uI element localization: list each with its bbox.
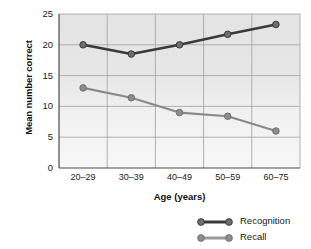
data-series-layer: [80, 21, 279, 134]
y-axis-title: Mean number correct: [23, 8, 34, 168]
horizontal-gridlines: [59, 14, 300, 137]
legend-marker-recognition: [196, 214, 234, 226]
plot-canvas: [59, 14, 300, 168]
x-axis-title: Age (years): [59, 191, 300, 202]
y-tick-label: 0: [27, 162, 53, 173]
vertical-gridlines: [107, 14, 300, 168]
legend-label-recall: Recall: [240, 231, 266, 242]
legend-marker-recall: [196, 230, 234, 242]
line-chart: Mean number correct 0510152025 20–2930–3…: [0, 0, 311, 249]
x-tick-label: 20–29: [59, 172, 107, 182]
legend-item-recognition: Recognition: [196, 212, 311, 228]
legend-item-recall: Recall: [196, 228, 311, 244]
y-tick-label: 15: [27, 70, 53, 81]
x-tick-label: 40–49: [156, 172, 204, 182]
x-tick-label: 60–75: [252, 172, 300, 182]
x-tick-label: 30–39: [107, 172, 155, 182]
y-tick-label: 20: [27, 39, 53, 50]
chart-legend: Recognition Recall: [196, 212, 311, 244]
y-tick-label: 5: [27, 131, 53, 142]
legend-label-recognition: Recognition: [240, 215, 290, 226]
y-tick-label: 10: [27, 100, 53, 111]
plot-area: [59, 14, 300, 168]
x-tick-label: 50–59: [204, 172, 252, 182]
y-tick-label: 25: [27, 8, 53, 19]
